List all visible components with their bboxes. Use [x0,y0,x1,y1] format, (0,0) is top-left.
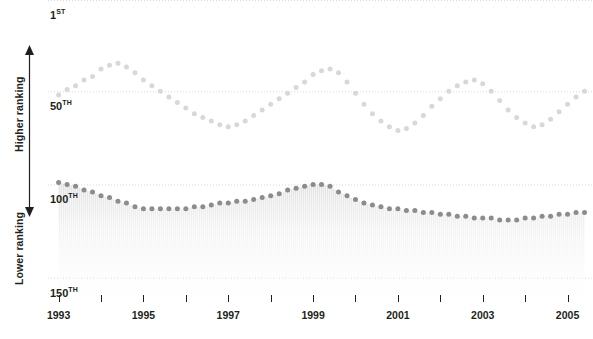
data-point [540,214,545,219]
data-point [336,70,341,75]
data-point [455,83,460,88]
data-point [183,106,188,111]
data-point [56,180,61,185]
data-point [446,89,451,94]
x-axis-tick [525,295,526,302]
data-point [226,201,231,206]
area-stripe-dark-series [59,183,585,300]
x-axis-tick [568,295,569,302]
vertical-axis-annotation: Higher ranking Lower ranking [0,0,42,300]
data-point [132,70,137,75]
x-axis-tick [228,295,229,302]
data-point [370,202,375,207]
data-point [404,126,409,131]
data-point [99,193,104,198]
data-point [395,206,400,211]
data-point [472,78,477,83]
data-point [149,206,154,211]
data-point [378,204,383,209]
data-point [582,89,587,94]
x-axis-tick [59,295,60,302]
data-point [115,199,120,204]
data-point [217,201,222,206]
x-axis-tick [313,295,314,302]
x-axis-tick [101,295,102,302]
data-point [285,91,290,96]
data-point [277,191,282,196]
data-point [294,85,299,90]
data-point [65,87,70,92]
data-point [90,189,95,194]
series-canvas [48,0,593,300]
data-point [226,124,231,129]
data-point [540,122,545,127]
x-tick-label-1999: 1999 [301,309,324,321]
data-point [200,204,205,209]
data-point [234,122,239,127]
y-tick-label-1st: 1ST [50,8,65,21]
y-tick-label-50th: 50TH [50,99,72,112]
x-tick-label-2005: 2005 [556,309,579,321]
data-point [251,197,256,202]
x-tick-label-1997: 1997 [217,309,240,321]
data-point [192,204,197,209]
data-point [345,79,350,84]
data-point [73,184,78,189]
data-point [395,128,400,133]
data-point [166,94,171,99]
x-axis-tick [440,295,441,302]
data-point [107,195,112,200]
data-point [328,66,333,71]
data-point [421,210,426,215]
data-point [243,119,248,124]
data-point [319,182,324,187]
data-point [565,102,570,107]
plot-area [48,0,593,300]
data-point [557,109,562,114]
data-point [421,113,426,118]
data-point [294,186,299,191]
data-point [107,63,112,68]
data-point [73,83,78,88]
data-point [353,197,358,202]
data-point [175,206,180,211]
data-point [472,216,477,221]
x-tick-label-1993: 1993 [47,309,70,321]
data-point [514,217,519,222]
data-point [158,206,163,211]
data-point [124,65,129,70]
data-point [506,107,511,112]
data-point [387,206,392,211]
data-point [438,212,443,217]
data-point [243,199,248,204]
data-point [531,216,536,221]
data-point [200,115,205,120]
data-point [311,72,316,77]
y-tick-label-100th: 100TH [50,192,78,205]
data-point [56,93,61,98]
data-point [183,206,188,211]
data-point [455,214,460,219]
data-point [412,120,417,125]
data-point [353,91,358,96]
data-point [378,119,383,124]
x-tick-label-1995: 1995 [132,309,155,321]
data-point [141,78,146,83]
data-point [531,124,536,129]
x-axis: 1993199519971999200120032005 [0,290,593,339]
data-point [463,214,468,219]
data-point [149,83,154,88]
data-point [251,113,256,118]
data-point [514,115,519,120]
data-point [234,199,239,204]
data-point [285,188,290,193]
data-point [268,102,273,107]
data-point [438,96,443,101]
x-axis-tick [271,295,272,302]
x-tick-label-2001: 2001 [386,309,409,321]
series-light-series [56,61,587,133]
data-point [319,68,324,73]
chart-figure: Higher ranking Lower ranking 1ST50TH100T… [0,0,593,339]
data-point [82,188,87,193]
data-point [582,210,587,215]
